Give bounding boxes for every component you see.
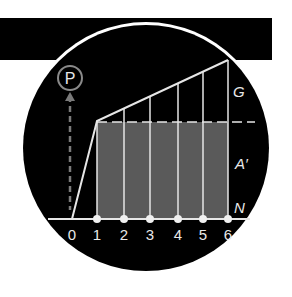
diagram: P G A′ N 0 1 2 3 4 5 6 [0, 0, 292, 297]
svg-text:0: 0 [68, 226, 76, 243]
svg-text:P: P [65, 70, 76, 87]
svg-text:1: 1 [93, 226, 101, 243]
label-g: G [233, 83, 245, 100]
svg-text:5: 5 [199, 226, 207, 243]
svg-text:6: 6 [224, 226, 232, 243]
svg-text:2: 2 [120, 226, 128, 243]
label-a-prime: A′ [234, 155, 249, 172]
svg-text:4: 4 [174, 226, 182, 243]
svg-text:3: 3 [146, 226, 154, 243]
area-region [97, 122, 228, 219]
label-n: N [234, 199, 245, 216]
